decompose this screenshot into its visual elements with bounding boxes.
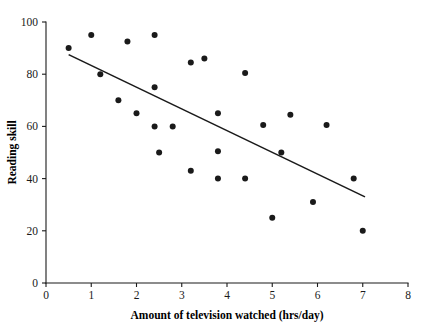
data-point (152, 123, 158, 129)
data-point (124, 39, 130, 45)
trend-line (69, 55, 365, 197)
y-axis-tick-label: 60 (27, 120, 39, 132)
y-axis-tick-label: 0 (32, 277, 38, 289)
data-point (260, 122, 266, 128)
data-point (215, 176, 221, 182)
x-axis-title: Amount of television watched (hrs/day) (131, 309, 324, 322)
data-point (188, 59, 194, 65)
data-point (156, 150, 162, 156)
x-axis-tick-group: 012345678 (43, 283, 411, 301)
data-point (360, 228, 366, 234)
data-points-group (66, 32, 366, 234)
plot-canvas: 020406080100 012345678 Amount of televis… (0, 0, 422, 329)
x-axis-tick-label: 7 (360, 289, 366, 301)
data-point (242, 70, 248, 76)
scatter-plot-figure: 020406080100 012345678 Amount of televis… (0, 0, 422, 329)
data-point (215, 110, 221, 116)
x-axis-tick-label: 5 (269, 289, 275, 301)
x-axis-tick-label: 2 (134, 289, 140, 301)
data-point (188, 168, 194, 174)
data-point (215, 148, 221, 154)
data-point (134, 110, 140, 116)
x-axis-tick-label: 1 (88, 289, 94, 301)
data-point (324, 122, 330, 128)
x-axis-tick-label: 0 (43, 289, 49, 301)
data-point (201, 56, 207, 62)
data-point (152, 32, 158, 38)
data-point (97, 71, 103, 77)
y-axis-title: Reading skill (6, 120, 19, 184)
data-point (351, 176, 357, 182)
y-axis-tick-label: 100 (21, 16, 39, 28)
data-point (88, 32, 94, 38)
x-axis-tick-label: 3 (179, 289, 185, 301)
y-axis-tick-label: 20 (27, 225, 39, 237)
data-point (152, 84, 158, 90)
data-point (242, 176, 248, 182)
x-axis-tick-label: 4 (224, 289, 230, 301)
data-point (310, 199, 316, 205)
y-axis-tick-label: 40 (27, 173, 39, 185)
y-axis-tick-label: 80 (27, 68, 39, 80)
data-point (66, 45, 72, 51)
x-axis-tick-label: 8 (405, 289, 411, 301)
data-point (278, 150, 284, 156)
data-point (170, 123, 176, 129)
data-point (269, 215, 275, 221)
y-axis-tick-group: 020406080100 (21, 16, 46, 289)
data-point (287, 112, 293, 118)
data-point (115, 97, 121, 103)
x-axis-tick-label: 6 (315, 289, 321, 301)
